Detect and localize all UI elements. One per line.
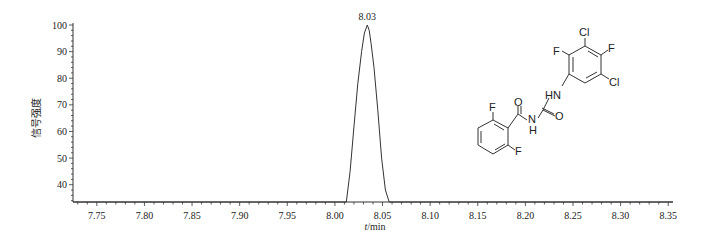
- y-axis-title: 信号强度: [30, 98, 42, 138]
- label-o-amide: O: [514, 96, 523, 108]
- molecule-labels: Cl F F Cl HN O O N H F F: [489, 26, 619, 157]
- label-f-benz-top: F: [489, 101, 496, 113]
- y-tick-label: 100: [52, 20, 67, 31]
- molecule-structure: [478, 38, 609, 154]
- lower-benzene-ring: [478, 120, 508, 154]
- label-f-top: F: [608, 42, 615, 54]
- x-tick-label: 7.95: [279, 210, 297, 221]
- y-tick-label: 40: [57, 179, 67, 190]
- chromatogram-line: [73, 25, 673, 202]
- plot-area: 8.03: [73, 11, 673, 202]
- label-hn: HN: [545, 89, 561, 101]
- label-o-urea: O: [555, 110, 564, 122]
- label-h-lower: H: [529, 124, 537, 136]
- y-tick-label: 70: [57, 99, 67, 110]
- x-tick-label: 7.80: [136, 210, 154, 221]
- label-f-benz-bottom: F: [515, 145, 522, 157]
- x-tick-label: 8.20: [517, 210, 535, 221]
- x-axis: 7.757.807.857.907.958.008.058.108.158.20…: [73, 202, 677, 221]
- chromatogram-chart: 405060708090100 7.757.807.857.907.958.00…: [0, 0, 710, 245]
- y-tick-label: 90: [57, 46, 67, 57]
- upper-benzene-ring: [569, 46, 601, 83]
- label-cl-top: Cl: [579, 26, 589, 38]
- x-tick-label: 7.90: [231, 210, 249, 221]
- peak-label: 8.03: [359, 11, 377, 22]
- x-tick-label: 8.30: [612, 210, 630, 221]
- x-tick-label: 8.15: [469, 210, 487, 221]
- x-tick-label: 8.25: [564, 210, 582, 221]
- x-tick-label: 8.00: [326, 210, 344, 221]
- y-axis: 405060708090100: [52, 20, 73, 203]
- x-axis-title: t/min: [364, 221, 385, 232]
- x-tick-label: 8.35: [659, 210, 677, 221]
- x-tick-label: 7.85: [183, 210, 201, 221]
- x-tick-label: 8.10: [421, 210, 439, 221]
- label-f-left: F: [553, 45, 560, 57]
- y-tick-label: 80: [57, 73, 67, 84]
- y-tick-label: 60: [57, 126, 67, 137]
- label-cl-right: Cl: [609, 76, 619, 88]
- y-tick-label: 50: [57, 153, 67, 164]
- x-tick-label: 8.05: [374, 210, 392, 221]
- x-tick-label: 7.75: [88, 210, 106, 221]
